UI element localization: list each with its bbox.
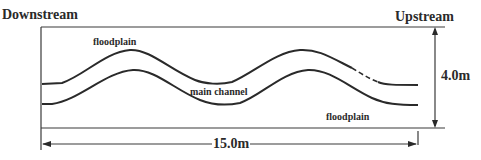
floodplain-bottom-label: floodplain bbox=[326, 112, 369, 122]
downstream-label: Downstream bbox=[2, 8, 78, 22]
upstream-label: Upstream bbox=[395, 10, 454, 24]
upper-channel-bank bbox=[42, 50, 352, 84]
height-arrow-down-icon bbox=[432, 120, 438, 128]
main-channel-label: main channel bbox=[190, 87, 248, 97]
upper-bank-end bbox=[378, 82, 418, 85]
upper-bank-dashed-section bbox=[352, 68, 378, 82]
floodplain-top-label: floodplain bbox=[93, 37, 136, 47]
width-arrow-left-icon bbox=[42, 141, 51, 147]
height-dimension-label: 4.0m bbox=[440, 69, 471, 83]
width-arrow-right-icon bbox=[408, 141, 417, 147]
height-arrow-up-icon bbox=[432, 27, 438, 35]
width-dimension-label: 15.0m bbox=[212, 137, 250, 151]
